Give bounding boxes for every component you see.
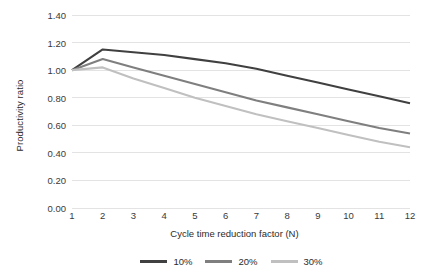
x-tick-label: 5 [192, 210, 197, 221]
x-tick-label: 3 [131, 210, 136, 221]
x-tick-label: 8 [284, 210, 289, 221]
x-tick-label: 1 [69, 210, 74, 221]
legend-item-20[interactable]: 20% [205, 256, 257, 267]
x-tick-label: 2 [100, 210, 105, 221]
x-axis-tick-labels: 123456789101112 [72, 210, 410, 226]
x-tick-label: 7 [254, 210, 259, 221]
y-tick-label: 0.00 [26, 203, 66, 214]
series-line-10 [72, 49, 410, 103]
y-tick-label: 0.20 [26, 175, 66, 186]
y-tick-label: 0.40 [26, 147, 66, 158]
legend-label: 20% [238, 256, 257, 267]
legend-item-30[interactable]: 30% [271, 256, 323, 267]
y-axis-title: Productivity ratio [14, 51, 25, 181]
chart-canvas [72, 15, 410, 208]
x-tick-label: 6 [223, 210, 228, 221]
legend-item-10[interactable]: 10% [140, 256, 192, 267]
y-tick-label: 1.00 [26, 65, 66, 76]
x-tick-label: 12 [405, 210, 416, 221]
y-tick-label: 0.80 [26, 92, 66, 103]
legend-label: 30% [304, 256, 323, 267]
y-tick-label: 1.20 [26, 37, 66, 48]
y-tick-label: 1.40 [26, 10, 66, 21]
y-tick-label: 0.60 [26, 120, 66, 131]
x-tick-label: 10 [343, 210, 354, 221]
legend-swatch-icon [205, 260, 232, 262]
x-axis-title: Cycle time reduction factor (N) [0, 228, 433, 239]
x-tick-label: 4 [162, 210, 167, 221]
series-line-30 [72, 67, 410, 147]
chart-figure: Productivity ratio 0.000.200.400.600.801… [0, 0, 433, 280]
legend-swatch-icon [140, 260, 167, 262]
x-tick-label: 11 [374, 210, 384, 221]
plot-area [72, 15, 410, 208]
legend-swatch-icon [271, 260, 298, 262]
x-tick-label: 9 [315, 210, 320, 221]
chart-legend: 10%20%30% [0, 256, 433, 267]
legend-label: 10% [173, 256, 192, 267]
